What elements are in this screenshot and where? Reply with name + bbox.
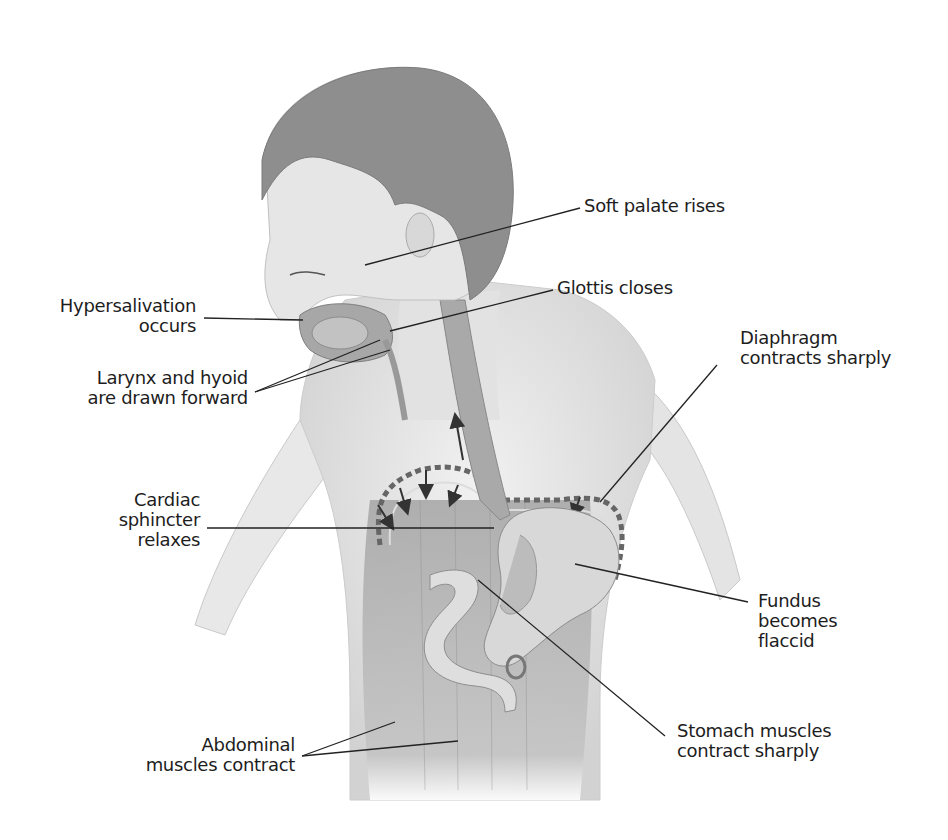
label-stomach-muscles: Stomach muscles contract sharply (677, 721, 831, 761)
label-abdominal-muscles: Abdominal muscles contract (120, 735, 295, 775)
tongue (312, 317, 368, 349)
label-hypersalivation: Hypersalivation occurs (28, 296, 196, 336)
label-diaphragm: Diaphragm contracts sharply (740, 328, 891, 368)
label-larynx-hyoid: Larynx and hyoid are drawn forward (36, 368, 248, 408)
label-fundus: Fundus becomes flaccid (758, 591, 837, 651)
anatomical-illustration (0, 0, 948, 840)
vomiting-physiology-diagram: Soft palate rises Glottis closes Hypersa… (0, 0, 948, 840)
label-glottis: Glottis closes (557, 278, 673, 298)
label-soft-palate: Soft palate rises (584, 196, 725, 216)
label-cardiac-sphincter: Cardiac sphincter relaxes (80, 490, 200, 550)
